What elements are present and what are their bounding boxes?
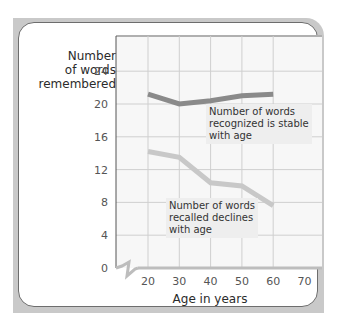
y-tick-label: 8	[101, 196, 108, 209]
annotation-text: Number of words	[209, 106, 309, 118]
y-tick-label: 24	[94, 65, 108, 78]
annotation-text: with age	[169, 224, 255, 236]
x-tick-label: 70	[298, 275, 312, 288]
annotation-recalled: Number of words recalled declines with a…	[166, 198, 258, 238]
y-tick-label: 4	[101, 229, 108, 242]
x-tick-label: 60	[266, 275, 280, 288]
y-tick-label: 0	[101, 262, 108, 275]
x-tick-label: 50	[235, 275, 249, 288]
x-tick-label: 30	[172, 275, 186, 288]
annotation-text: recalled declines	[169, 212, 255, 224]
y-tick-label: 12	[94, 164, 108, 177]
x-tick-label: 20	[141, 275, 155, 288]
x-axis-label: Age in years	[173, 292, 248, 306]
annotation-text: Number of words	[169, 200, 255, 212]
line-chart: 04812162024203040506070Age in years	[0, 0, 340, 326]
y-tick-label: 20	[94, 98, 108, 111]
annotation-text: with age	[209, 130, 309, 142]
x-tick-label: 40	[204, 275, 218, 288]
annotation-text: recognized is stable	[209, 118, 309, 130]
annotation-recognized: Number of words recognized is stable wit…	[206, 104, 312, 144]
y-tick-label: 16	[94, 131, 108, 144]
